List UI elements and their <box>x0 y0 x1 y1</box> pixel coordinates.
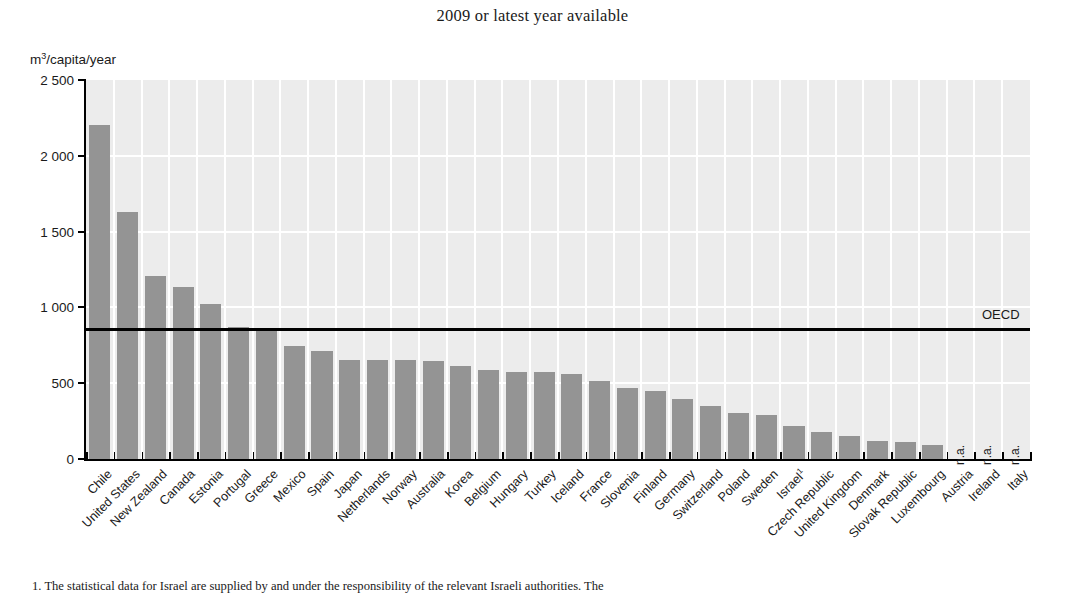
gridline-vertical <box>141 80 143 459</box>
gridline-vertical <box>196 80 198 459</box>
gridline-vertical <box>890 80 892 459</box>
y-axis-tick <box>78 458 85 460</box>
y-axis-tick <box>78 306 85 308</box>
y-axis-tick-label: 1 000 <box>14 300 74 315</box>
y-axis-tick-label: 2 000 <box>14 148 74 163</box>
gridline-vertical <box>1001 80 1003 459</box>
gridline-vertical <box>363 80 365 459</box>
y-axis-tick-label: 1 500 <box>14 224 74 239</box>
bar <box>117 212 138 459</box>
gridline-vertical <box>113 80 115 459</box>
gridline-vertical <box>751 80 753 459</box>
gridline-vertical <box>390 80 392 459</box>
gridline-vertical <box>168 80 170 459</box>
gridline-vertical <box>418 80 420 459</box>
oecd-reference-line <box>86 328 1030 331</box>
gridline-vertical <box>307 80 309 459</box>
footnote-text: The statistical data for Israel are supp… <box>44 579 603 593</box>
y-axis-tick <box>78 231 85 233</box>
y-axis-tick-label: 500 <box>14 376 74 391</box>
y-axis-tick <box>78 155 85 157</box>
gridline-vertical <box>585 80 587 459</box>
y-axis-tick <box>78 79 85 81</box>
y-axis-unit-label: m3/capita/year <box>30 52 116 67</box>
bar <box>145 276 166 459</box>
gridline-vertical <box>668 80 670 459</box>
gridline-vertical <box>557 80 559 459</box>
gridline-vertical <box>640 80 642 459</box>
gridline-vertical <box>474 80 476 459</box>
bar <box>89 125 110 459</box>
gridline-vertical <box>862 80 864 459</box>
gridline-vertical <box>613 80 615 459</box>
y-axis-tick-label: 2 500 <box>14 73 74 88</box>
gridline-vertical <box>946 80 948 459</box>
y-axis-line <box>84 79 86 460</box>
y-axis-tick-label: 0 <box>14 452 74 467</box>
x-axis-tick <box>86 452 88 461</box>
gridline-vertical <box>696 80 698 459</box>
oecd-reference-label: OECD <box>982 307 1020 322</box>
gridline-vertical <box>807 80 809 459</box>
gridline-vertical <box>501 80 503 459</box>
y-axis-tick <box>78 382 85 384</box>
chart-title: 2009 or latest year available <box>0 6 1065 26</box>
gridline-vertical <box>724 80 726 459</box>
gridline-vertical <box>446 80 448 459</box>
gridline-vertical <box>279 80 281 459</box>
gridline-vertical <box>529 80 531 459</box>
gridline-vertical <box>779 80 781 459</box>
gridline-vertical <box>335 80 337 459</box>
gridline-vertical <box>224 80 226 459</box>
footnote: 1. The statistical data for Israel are s… <box>32 578 1042 593</box>
gridline-vertical <box>835 80 837 459</box>
gridline-vertical <box>252 80 254 459</box>
footnote-marker: 1. <box>32 579 41 593</box>
gridline-vertical <box>918 80 920 459</box>
